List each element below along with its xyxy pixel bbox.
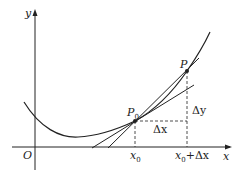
x-axis-arrow-icon — [225, 145, 232, 150]
y-axis-arrow-icon — [33, 9, 38, 16]
derivative-diagram: y x O P0 P Δy Δx x0 x0+Δx — [0, 0, 245, 178]
y-axis-label: y — [25, 8, 31, 19]
origin-label: O — [23, 150, 32, 161]
x0-label: x0 — [130, 150, 141, 164]
tangent-line — [92, 85, 194, 148]
delta-x-label: Δx — [153, 124, 167, 135]
x0-plus-dx-label: x0+Δx — [175, 150, 209, 164]
p0-label: P0 — [127, 107, 139, 121]
p-label: P — [180, 59, 187, 70]
x-axis-label: x — [223, 151, 229, 162]
delta-y-label: Δy — [192, 105, 206, 116]
